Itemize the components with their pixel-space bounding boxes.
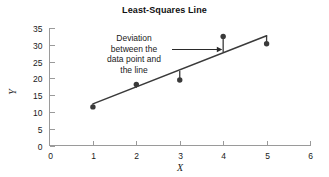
y-axis-tick-labels: 05101520253035 [33, 24, 43, 152]
deviation-annotation-text: Deviationbetween thedata point andthe li… [107, 33, 161, 75]
annotation-text-line: the line [120, 65, 148, 75]
x-tick-label: 1 [91, 151, 96, 161]
y-tick-label: 25 [33, 58, 43, 68]
x-axis-title: X [176, 162, 184, 173]
annotation-text-line: data point and [107, 54, 161, 64]
x-tick-label: 2 [134, 151, 139, 161]
x-axis-ticks [94, 141, 311, 146]
arrow-head [217, 47, 223, 53]
x-tick-label: 0 [48, 151, 53, 161]
y-tick-label: 30 [33, 41, 43, 51]
y-tick-label: 10 [33, 108, 43, 118]
y-axis-title: Y [7, 88, 18, 95]
scatter-plot: 05101520253035 0123456 Y X Deviationbetw… [0, 0, 329, 177]
y-tick-label: 15 [33, 91, 43, 101]
annotation-text-line: Deviation [116, 33, 152, 43]
y-tick-label: 0 [38, 142, 43, 152]
annotation-text-line: between the [111, 44, 158, 54]
annotation-arrow [172, 47, 222, 53]
x-tick-label: 6 [308, 151, 313, 161]
y-axis-ticks [50, 29, 55, 147]
x-tick-label: 4 [221, 151, 226, 161]
y-tick-label: 5 [38, 125, 43, 135]
y-tick-label: 35 [33, 24, 43, 34]
x-tick-label: 3 [178, 151, 183, 161]
data-point [90, 104, 95, 109]
x-axis-tick-labels: 0123456 [48, 151, 313, 161]
chart-screenshot: Least-Squares Line 05101520253035 012345… [0, 0, 329, 177]
y-tick-label: 20 [33, 74, 43, 84]
data-point [220, 34, 225, 39]
x-tick-label: 5 [265, 151, 270, 161]
